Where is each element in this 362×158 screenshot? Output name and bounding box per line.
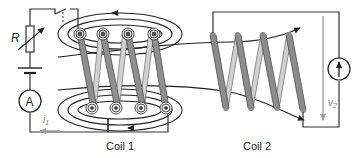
mutual-induction-diagram: R A i1 (0, 0, 362, 158)
coil1-top-cross-sections (74, 28, 160, 40)
coil1: Coil 1 (74, 28, 172, 152)
ammeter-label: A (26, 95, 34, 109)
resistor-label: R (11, 31, 20, 45)
coil2-label: Coil 2 (243, 140, 271, 152)
ammeter: A (19, 90, 41, 112)
switch[interactable] (55, 9, 78, 28)
voltage-label: v2 (328, 97, 337, 109)
coil1-label: Coil 1 (106, 140, 134, 152)
battery (18, 68, 42, 73)
coil2: Coil 2 (210, 35, 306, 152)
voltmeter (328, 58, 350, 80)
current-label: i1 (43, 114, 49, 126)
coil1-bottom-cross-sections (86, 102, 172, 114)
variable-resistor (18, 26, 44, 52)
